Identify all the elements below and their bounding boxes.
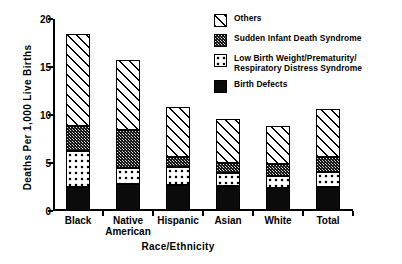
legend-item: Low Birth Weight/Prematurity/ Respirator…: [214, 54, 400, 73]
bar-segment: [266, 164, 290, 176]
bar-segment: [66, 151, 90, 187]
bar-segment: [166, 107, 190, 157]
bar-segment: [266, 126, 290, 164]
bar-segment: [266, 176, 290, 188]
legend-item: Others: [214, 14, 400, 27]
infant-mortality-stacked-bar-chart: Deaths Per 1,000 Live Births 05101520 Bl…: [0, 0, 402, 264]
x-tick-mark: [152, 211, 154, 216]
legend-swatch: [214, 54, 227, 67]
legend-item: Sudden Infant Death Syndrome: [214, 34, 400, 47]
legend-swatch: [214, 14, 227, 27]
bar-segment: [216, 186, 240, 211]
x-tick-label: Total: [316, 215, 339, 226]
bar-segment: [66, 187, 90, 211]
x-tick-label: White: [264, 215, 291, 226]
bar-segment: [166, 167, 190, 185]
legend-swatch: [214, 80, 227, 93]
stacked-bar: [116, 60, 140, 211]
bar-segment: [66, 126, 90, 151]
y-tick-label: 10: [40, 110, 51, 121]
bar-segment: [316, 157, 340, 171]
legend-label: Birth Defects: [234, 80, 287, 90]
x-tick-mark: [202, 211, 204, 216]
y-axis-title: Deaths Per 1,000 Live Births: [22, 28, 33, 208]
x-tick-label: NativeAmerican: [105, 215, 151, 237]
y-tick-label: 0: [45, 206, 51, 217]
bar-segment: [266, 188, 290, 211]
stacked-bar: [216, 119, 240, 211]
bar-segment: [166, 185, 190, 211]
stacked-bar: [266, 126, 290, 211]
bar-segment: [166, 157, 190, 167]
x-tick-label: Black: [65, 215, 92, 226]
y-tick-label: 15: [40, 62, 51, 73]
legend-item: Birth Defects: [214, 80, 400, 93]
stacked-bar: [66, 34, 90, 211]
y-tick-label: 5: [45, 158, 51, 169]
x-tick-label: Hispanic: [157, 215, 199, 226]
bar-segment: [316, 109, 340, 157]
bar-segment: [116, 184, 140, 211]
bar-segment: [116, 60, 140, 130]
stacked-bar: [316, 109, 340, 211]
legend-label: Others: [234, 14, 262, 24]
legend-label: Low Birth Weight/Prematurity/ Respirator…: [234, 54, 362, 73]
bar-segment: [66, 34, 90, 125]
x-axis-title: Race/Ethnicity: [38, 241, 318, 252]
bar-segment: [116, 130, 140, 167]
x-tick-label: Asian: [214, 215, 241, 226]
bar-segment: [316, 187, 340, 211]
x-tick-mark: [302, 211, 304, 216]
y-axis-line: [53, 19, 55, 211]
bar-segment: [216, 173, 240, 186]
bar-segment: [116, 168, 140, 184]
bar-segment: [216, 163, 240, 173]
x-tick-mark: [252, 211, 254, 216]
y-tick-label: 20: [40, 14, 51, 25]
bar-segment: [316, 172, 340, 187]
legend-swatch: [214, 34, 227, 47]
bar-segment: [216, 119, 240, 163]
stacked-bar: [166, 107, 190, 211]
chart-legend: OthersSudden Infant Death SyndromeLow Bi…: [214, 14, 400, 100]
x-tick-mark: [352, 211, 354, 216]
x-tick-mark: [102, 211, 104, 216]
legend-label: Sudden Infant Death Syndrome: [234, 34, 362, 44]
